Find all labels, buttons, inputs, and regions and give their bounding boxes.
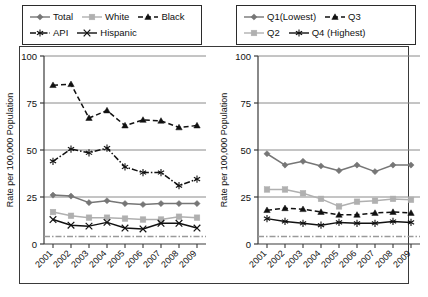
legend-row: Q1(Lowest)Q3 — [241, 9, 411, 25]
y-tick-label: 0 — [246, 239, 251, 250]
triangle-marker — [68, 81, 74, 87]
plot-area-race-ethnicity: 0255075100200120022003200420052006200720… — [0, 48, 214, 297]
legend-item-label: API — [53, 28, 68, 38]
diamond-marker — [104, 198, 110, 204]
plot-area-income-quartile: 0255075100200120022003200420052006200720… — [214, 48, 428, 297]
legend-item-black[interactable]: Black — [137, 11, 184, 23]
triangle-marker — [158, 118, 164, 124]
diamond-marker — [122, 200, 128, 206]
y-tick-label: 25 — [26, 192, 37, 203]
triangle-marker — [104, 107, 110, 113]
square-marker — [372, 198, 378, 204]
legend-item-api[interactable]: API — [29, 27, 68, 39]
diamond-marker — [37, 14, 43, 20]
square-marker — [354, 199, 360, 205]
legend-item-label: Q1(Lowest) — [267, 12, 316, 22]
diamond-marker — [158, 200, 164, 206]
x-tick-label: 2004 — [87, 248, 108, 269]
legend-item-label: Q2 — [267, 28, 280, 38]
chart-svg-right: 0255075100200120022003200420052006200720… — [214, 48, 428, 297]
legend-grid-right: Q1(Lowest)Q3Q2Q4 (Highest) — [237, 6, 415, 44]
diamond-marker — [408, 162, 414, 168]
x-tick-label: 2006 — [337, 248, 358, 269]
legend-marker-diamond — [29, 11, 51, 23]
legend-marker-asterisk — [288, 27, 310, 39]
diamond-marker — [354, 162, 360, 168]
series-black — [50, 81, 200, 130]
legend-item-q3[interactable]: Q3 — [324, 11, 361, 23]
legend-income-quartile: Q1(Lowest)Q3Q2Q4 (Highest) — [236, 5, 416, 45]
square-marker — [122, 216, 128, 222]
legend-item-hispanic[interactable]: Hispanic — [76, 27, 136, 39]
legend-row: Q2Q4 (Highest) — [241, 25, 411, 41]
diamond-marker — [68, 193, 74, 199]
legend-marker-triangle — [324, 11, 346, 23]
legend-item-label: Total — [53, 12, 73, 22]
square-marker — [390, 196, 396, 202]
x-tick-label: 2003 — [283, 248, 304, 269]
diamond-marker — [390, 162, 396, 168]
legend-item-q2[interactable]: Q2 — [243, 27, 280, 39]
series-q1-lowest — [264, 151, 414, 175]
x-tick-label: 2003 — [69, 248, 90, 269]
y-tick-label: 25 — [240, 192, 251, 203]
square-marker — [300, 190, 306, 196]
x-tick-label: 2005 — [105, 248, 126, 269]
panel-race-ethnicity: TotalWhiteBlackAPIHispanic 0255075100200… — [0, 0, 214, 297]
x-tick-label: 2007 — [141, 248, 162, 269]
square-marker — [282, 187, 288, 193]
legend-item-q1-lowest[interactable]: Q1(Lowest) — [243, 11, 316, 23]
x-tick-label: 2005 — [319, 248, 340, 269]
legend-race-ethnicity: TotalWhiteBlackAPIHispanic — [22, 5, 202, 45]
y-tick-label: 75 — [26, 98, 37, 109]
square-marker — [408, 197, 414, 203]
square-marker — [176, 214, 182, 220]
x-tick-label: 2002 — [265, 248, 286, 269]
square-marker — [318, 196, 324, 202]
y-tick-label: 75 — [240, 98, 251, 109]
square-marker — [86, 215, 92, 221]
x-tick-label: 2002 — [51, 248, 72, 269]
series-line — [53, 84, 197, 127]
legend-item-q4-highest[interactable]: Q4 (Highest) — [288, 27, 366, 39]
legend-marker-asterisk — [29, 27, 51, 39]
asterisk-marker — [50, 158, 56, 165]
y-tick-label: 50 — [240, 145, 251, 156]
legend-item-label: Q4 (Highest) — [312, 28, 366, 38]
diamond-marker — [86, 200, 92, 206]
diamond-marker — [336, 168, 342, 174]
legend-marker-diamond — [243, 11, 265, 23]
square-marker — [68, 213, 74, 219]
y-tick-label: 100 — [235, 51, 251, 62]
x-tick-label: 2001 — [33, 248, 54, 269]
legend-item-total[interactable]: Total — [29, 11, 73, 23]
square-marker — [194, 215, 200, 221]
y-tick-label: 0 — [32, 239, 37, 250]
legend-item-label: Black — [161, 12, 184, 22]
square-marker — [89, 14, 95, 20]
legend-row: APIHispanic — [27, 25, 197, 41]
diamond-marker — [251, 14, 257, 20]
legend-item-white[interactable]: White — [81, 11, 129, 23]
diamond-marker — [372, 169, 378, 175]
diamond-marker — [176, 200, 182, 206]
x-tick-label: 2006 — [123, 248, 144, 269]
x-tick-label: 2008 — [373, 248, 394, 269]
legend-item-label: Hispanic — [100, 28, 136, 38]
legend-row: TotalWhiteBlack — [27, 9, 197, 25]
y-axis-title: Rate per 100,000 Population — [5, 93, 15, 208]
x-tick-label: 2004 — [301, 248, 322, 269]
diamond-marker — [300, 158, 306, 164]
diamond-marker — [318, 163, 324, 169]
series-total — [50, 192, 200, 208]
triangle-marker — [408, 210, 414, 216]
panel-income-quartile: Q1(Lowest)Q3Q2Q4 (Highest) 0255075100200… — [214, 0, 428, 297]
legend-item-label: White — [105, 12, 129, 22]
series-white — [50, 209, 200, 222]
legend-marker-square — [243, 27, 265, 39]
square-marker — [50, 209, 56, 215]
x-tick-label: 2007 — [355, 248, 376, 269]
square-marker — [251, 30, 257, 36]
x-tick-label: 2008 — [159, 248, 180, 269]
y-axis-title: Rate per 100,000 Population — [219, 93, 229, 208]
